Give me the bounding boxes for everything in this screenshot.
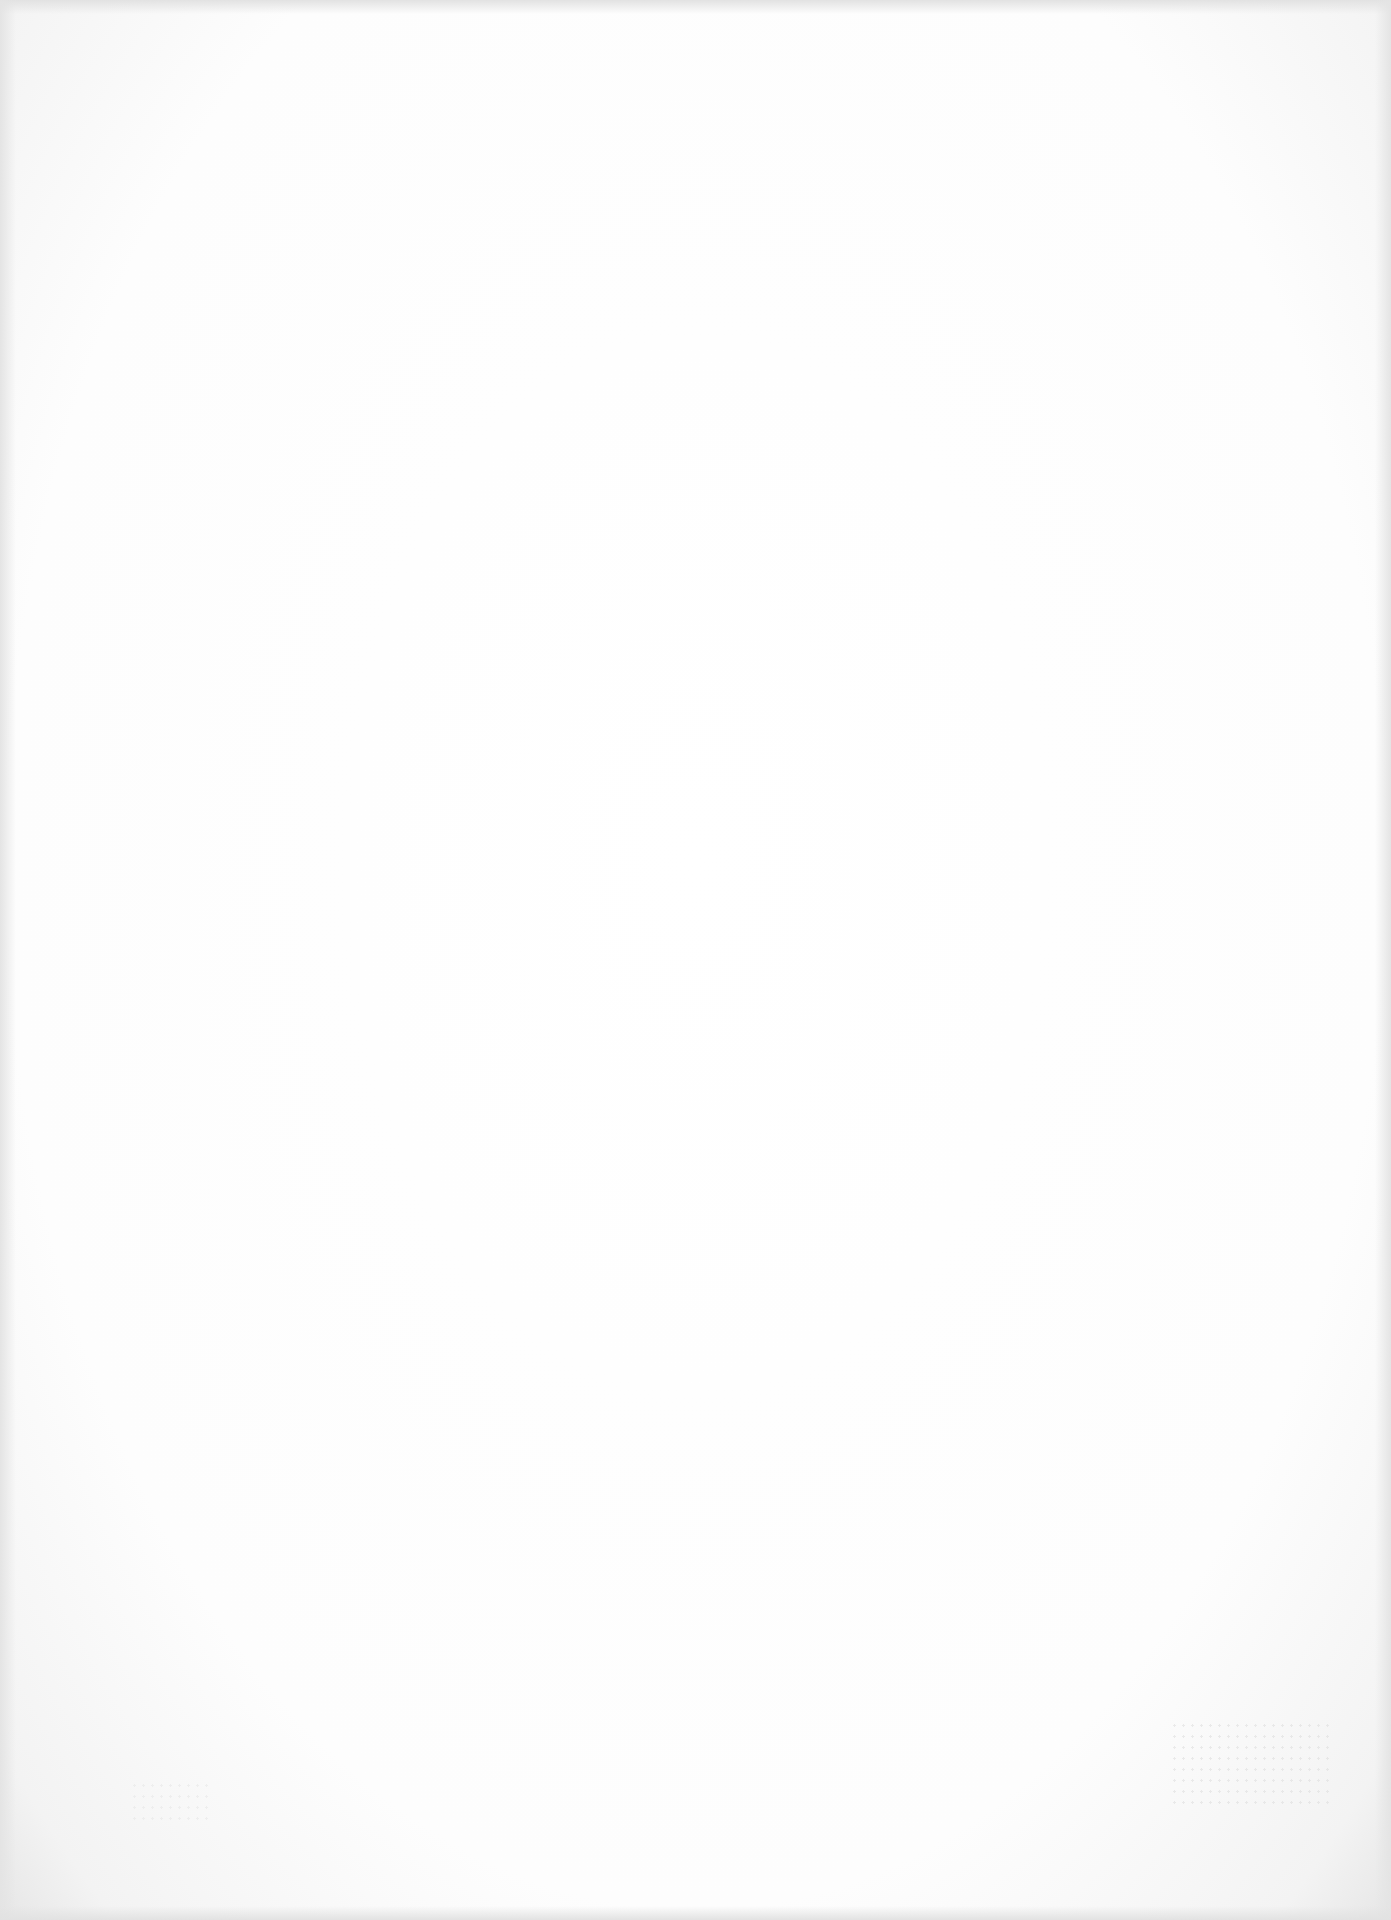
page-edge-shadow-right <box>1375 0 1391 1920</box>
bleed-through-text <box>520 158 940 198</box>
blank-page <box>0 0 1391 1920</box>
page-edge-shadow-left <box>0 0 16 1920</box>
scan-speckle-bottom-right <box>1170 1720 1330 1810</box>
page-edge-shadow-bottom <box>0 1906 1391 1920</box>
scan-speckle-bottom-left <box>130 1780 210 1820</box>
page-edge-shadow-top <box>0 0 1391 14</box>
